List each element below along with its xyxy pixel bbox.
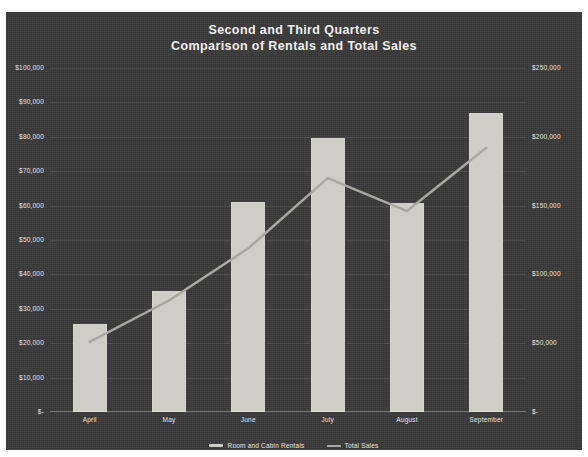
y-axis-right-tick: $50,000 xyxy=(532,339,557,346)
y-axis-left-tick: $90,000 xyxy=(19,98,44,105)
y-axis-right-tick: $150,000 xyxy=(532,202,561,209)
y-axis-left-tick: $100,000 xyxy=(15,64,44,71)
x-axis-labels: AprilMayJuneJulyAugustSeptember xyxy=(50,416,526,430)
legend-item[interactable]: Total Sales xyxy=(327,442,379,449)
legend-label: Total Sales xyxy=(345,442,379,449)
chart-legend: Room and Cabin RentalsTotal Sales xyxy=(6,442,582,449)
x-axis-tick-label: June xyxy=(208,416,288,423)
legend-item[interactable]: Room and Cabin Rentals xyxy=(209,442,304,449)
x-axis-tick-label: April xyxy=(50,416,130,423)
plot-area: $100,000$90,000$80,000$70,000$60,000$50,… xyxy=(50,68,526,412)
legend-swatch-icon xyxy=(327,445,341,447)
y-axis-left-tick: $50,000 xyxy=(19,236,44,243)
chart-title: Second and Third Quarters Comparison of … xyxy=(6,22,582,54)
total-sales-line xyxy=(90,148,487,342)
x-axis-tick-label: August xyxy=(367,416,447,423)
y-axis-right-tick: $200,000 xyxy=(532,133,561,140)
y-axis-left-tick: $60,000 xyxy=(19,202,44,209)
legend-label: Room and Cabin Rentals xyxy=(227,442,304,449)
legend-swatch-icon xyxy=(209,444,223,447)
y-axis-right-tick: $250,000 xyxy=(532,64,561,71)
chart-container: Second and Third Quarters Comparison of … xyxy=(6,12,582,450)
x-axis-tick-label: September xyxy=(446,416,526,423)
chart-title-line-2: Comparison of Rentals and Total Sales xyxy=(6,38,582,54)
x-axis-tick-label: May xyxy=(129,416,209,423)
chart-title-line-1: Second and Third Quarters xyxy=(6,22,582,38)
y-axis-right-tick: $100,000 xyxy=(532,270,561,277)
y-axis-left-tick: $80,000 xyxy=(19,133,44,140)
x-axis-baseline xyxy=(50,411,526,412)
y-axis-left-tick: $30,000 xyxy=(19,305,44,312)
x-axis-tick-label: July xyxy=(288,416,368,423)
y-axis-left-tick: $20,000 xyxy=(19,339,44,346)
y-axis-left-tick: $70,000 xyxy=(19,167,44,174)
y-axis-right-tick: $- xyxy=(532,408,538,415)
y-axis-left-tick: $- xyxy=(38,408,44,415)
y-axis-left-tick: $10,000 xyxy=(19,374,44,381)
line-series-total-sales xyxy=(50,68,526,412)
y-axis-left-tick: $40,000 xyxy=(19,270,44,277)
